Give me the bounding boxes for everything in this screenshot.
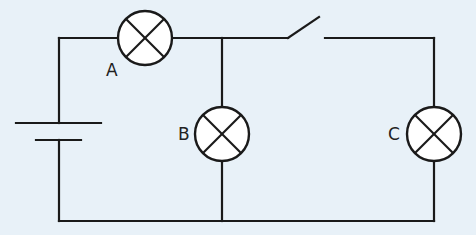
- battery-cell: [16, 123, 101, 140]
- lamp-b: [195, 107, 249, 161]
- lamp-a: [118, 11, 172, 65]
- lamp-b-label: B: [178, 124, 190, 144]
- lamp-c: [407, 107, 461, 161]
- switch-open: [288, 17, 319, 38]
- circuit-diagram: [0, 0, 476, 235]
- lamp-a-label: A: [106, 60, 118, 80]
- lamp-c-label: C: [388, 124, 400, 144]
- switch-blade: [288, 17, 319, 38]
